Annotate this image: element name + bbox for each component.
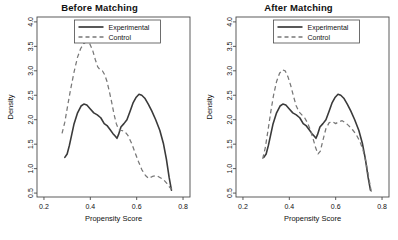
legend-item-control-label: Control — [308, 34, 331, 41]
y-tick-label: 4.0 — [227, 17, 234, 27]
legend-item-experimental-label: Experimental — [308, 24, 349, 32]
x-axis-title: Propensity Score — [284, 214, 341, 223]
panel-before-matching: Before Matching 0.51.01.52.02.53.03.54.0… — [0, 0, 199, 240]
legend-item-experimental-label: Experimental — [109, 24, 150, 32]
y-tick-label: 1.5 — [227, 139, 234, 149]
y-tick-label: 2.0 — [227, 115, 234, 125]
y-tick-label: 1.0 — [28, 164, 35, 174]
density-curve-experimental — [264, 94, 371, 190]
y-axis-title: Density — [205, 94, 214, 119]
y-tick-label: 0.5 — [28, 188, 35, 198]
density-curve-control — [62, 41, 172, 189]
y-tick-label: 3.5 — [227, 41, 234, 51]
y-tick-label: 2.5 — [227, 90, 234, 100]
y-tick-label: 1.5 — [28, 139, 35, 149]
x-tick-label: 0.8 — [377, 203, 387, 210]
y-tick-label: 0.5 — [227, 188, 234, 198]
y-tick-label: 4.0 — [28, 17, 35, 27]
x-tick-label: 0.6 — [132, 203, 142, 210]
density-curve-control — [263, 70, 372, 192]
density-curve-experimental — [65, 94, 172, 190]
x-tick-label: 0.2 — [39, 203, 49, 210]
x-tick-label: 0.8 — [178, 203, 188, 210]
density-plot-figure: Before Matching 0.51.01.52.02.53.03.54.0… — [0, 0, 398, 240]
plot-area-before: 0.51.01.52.02.53.03.54.00.20.40.60.8Prop… — [0, 0, 199, 240]
y-tick-label: 3.0 — [227, 66, 234, 76]
x-tick-label: 0.4 — [284, 203, 294, 210]
y-tick-label: 1.0 — [227, 164, 234, 174]
x-tick-label: 0.4 — [85, 203, 95, 210]
y-tick-label: 3.5 — [27, 41, 34, 51]
plot-frame — [236, 17, 389, 197]
plot-frame — [37, 17, 190, 197]
y-tick-label: 2.0 — [28, 115, 35, 125]
legend-item-control-label: Control — [109, 34, 132, 41]
y-axis-title: Density — [6, 94, 15, 119]
panel-after-matching: After Matching 0.51.01.52.02.53.03.54.00… — [199, 0, 398, 240]
x-axis-title: Propensity Score — [85, 214, 142, 223]
x-tick-label: 0.2 — [238, 203, 248, 210]
y-tick-label: 3.0 — [28, 66, 35, 76]
x-tick-label: 0.6 — [331, 203, 341, 210]
y-tick-label: 2.5 — [28, 90, 35, 100]
plot-area-after: 0.51.01.52.02.53.03.54.00.20.40.60.8Prop… — [199, 0, 398, 240]
